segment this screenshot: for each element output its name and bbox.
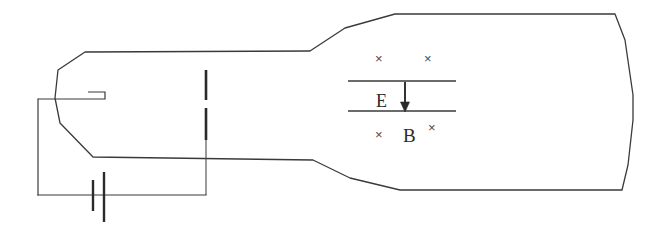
electric-field-label: E xyxy=(376,92,387,110)
field-into-page-cross-icon-2: × xyxy=(424,52,432,65)
field-into-page-cross-icon-3: × xyxy=(375,128,383,141)
crt-diagram: E B × × × × xyxy=(0,0,666,235)
electric-field-arrow-icon xyxy=(401,82,410,112)
magnetic-field-label: B xyxy=(403,126,416,145)
crt-schematic-svg xyxy=(0,0,666,235)
tube-envelope-outline xyxy=(55,14,633,190)
cathode-filament-lead xyxy=(38,92,105,99)
field-into-page-cross-icon-1: × xyxy=(375,52,383,65)
field-into-page-cross-icon-4: × xyxy=(428,121,436,134)
